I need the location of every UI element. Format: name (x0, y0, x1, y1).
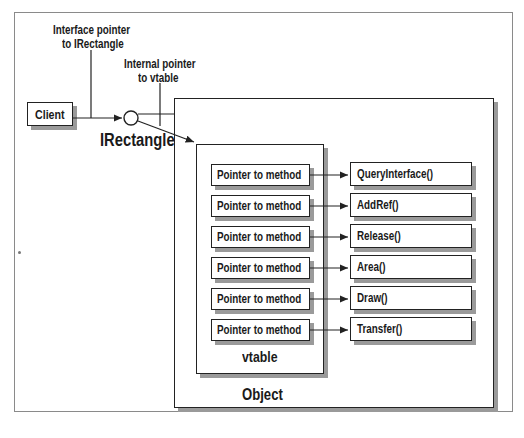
interface-lollipop-icon (124, 111, 138, 125)
connector-lines (0, 0, 524, 438)
